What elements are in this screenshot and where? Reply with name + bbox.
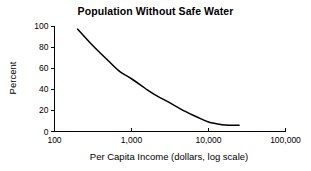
y-tick-label: 20 — [39, 105, 49, 115]
x-tick-labels: 1001,00010,000100,000 — [47, 135, 301, 145]
x-tick-label: 10,000 — [196, 135, 222, 145]
y-tick-label: 100 — [34, 21, 48, 31]
y-tick-labels: 020406080100 — [34, 21, 48, 137]
y-tick-label: 40 — [39, 84, 49, 94]
y-tick-marks — [51, 26, 55, 132]
y-tick-label: 80 — [39, 42, 49, 52]
chart-container: Population Without Safe Water 0204060801… — [0, 0, 311, 171]
x-tick-label: 1,000 — [121, 135, 143, 145]
data-line — [78, 29, 239, 125]
x-axis-title: Per Capita Income (dollars, log scale) — [90, 151, 248, 162]
x-tick-marks — [55, 128, 286, 132]
data-series-group — [78, 29, 239, 125]
y-tick-label: 60 — [39, 63, 49, 73]
x-axis: 1001,00010,000100,000 Per Capita Income … — [47, 128, 301, 163]
y-axis: 020406080100 Percent — [7, 21, 55, 137]
x-tick-label: 100,000 — [270, 135, 301, 145]
x-tick-label: 100 — [47, 135, 61, 145]
population-without-safe-water-chart: 020406080100 Percent 1001,00010,000100,0… — [0, 0, 311, 171]
y-axis-title: Percent — [7, 61, 18, 94]
